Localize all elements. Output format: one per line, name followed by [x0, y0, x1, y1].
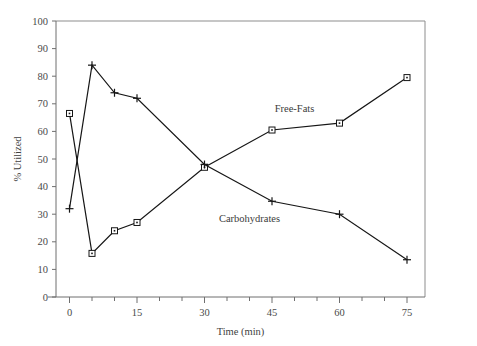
x-tick-label: 15 [132, 307, 143, 318]
data-point-carbohydrates-7 [403, 256, 411, 264]
y-tick-label: 20 [38, 236, 49, 247]
plot-frame [56, 21, 425, 297]
y-tick-label: 40 [38, 181, 49, 192]
data-point-free-fats-6-center [339, 122, 341, 124]
x-tick-label: 60 [334, 307, 345, 318]
y-tick-label: 30 [38, 209, 49, 220]
x-axis-title: Time (min) [217, 326, 265, 338]
y-tick-label: 100 [32, 16, 48, 27]
data-point-free-fats-0-center [69, 113, 71, 115]
chart-figure: 010203040506070809010001530456075Time (m… [0, 0, 477, 346]
series-annotation-free-fats: Free-Fats [275, 103, 315, 114]
y-tick-label: 0 [43, 292, 48, 303]
series-line-free-fats [70, 78, 408, 254]
data-point-free-fats-7-center [406, 77, 408, 79]
y-axis-title: % Utilized [12, 136, 23, 182]
y-tick-label: 90 [38, 43, 49, 54]
data-point-free-fats-1-center [91, 253, 93, 255]
data-point-free-fats-5-center [271, 129, 273, 131]
x-tick-label: 30 [199, 307, 210, 318]
y-tick-label: 10 [38, 264, 49, 275]
x-tick-label: 0 [67, 307, 72, 318]
data-point-carbohydrates-6 [336, 210, 344, 218]
data-point-carbohydrates-0 [66, 205, 74, 213]
y-tick-label: 70 [38, 98, 49, 109]
x-tick-label: 75 [402, 307, 413, 318]
x-tick-label: 45 [267, 307, 278, 318]
series-annotation-carbohydrates: Carbohydrates [219, 213, 280, 224]
series-line-carbohydrates [70, 65, 408, 260]
data-point-free-fats-2-center [114, 230, 116, 232]
data-point-carbohydrates-5 [268, 197, 276, 205]
data-point-free-fats-3-center [136, 222, 138, 224]
y-tick-label: 80 [38, 71, 49, 82]
line-chart: 010203040506070809010001530456075Time (m… [0, 0, 477, 346]
y-tick-label: 50 [38, 154, 49, 165]
y-tick-label: 60 [38, 126, 49, 137]
